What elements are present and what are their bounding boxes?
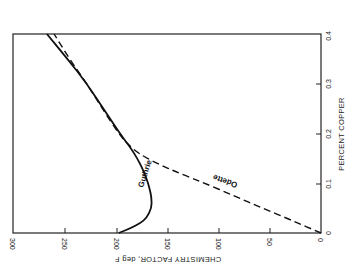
y-tick-label: 300 <box>9 238 16 250</box>
copper-ticks <box>316 84 321 184</box>
odette-series-line <box>54 34 321 233</box>
chemistry-factor-tick-labels: 300 250 200 150 100 50 0 <box>9 238 324 250</box>
chemistry-factor-chart: 300 250 200 150 100 50 0 CHEMISTRY FACTO… <box>0 0 353 277</box>
y-axis-title: CHEMISTRY FACTOR, deg F <box>115 255 222 264</box>
y-tick-label: 0 <box>317 238 324 242</box>
y-tick-label: 100 <box>215 238 222 250</box>
y-tick-label: 250 <box>61 238 68 250</box>
y-tick-label: 50 <box>266 238 273 246</box>
x-tick-label: 0.2 <box>325 129 332 139</box>
x-tick-label: 0.4 <box>325 31 332 41</box>
y-tick-label: 200 <box>113 238 120 250</box>
y-tick-label: 150 <box>164 238 171 250</box>
chemistry-factor-ticks <box>65 228 270 233</box>
x-tick-label: 0.1 <box>325 179 332 189</box>
guthrie-series-line <box>47 34 152 233</box>
x-tick-label: 0 <box>325 231 332 235</box>
copper-tick-labels: 0 0.1 0.2 0.3 0.4 <box>325 31 332 235</box>
odette-label: Odette <box>211 172 238 189</box>
x-tick-label: 0.3 <box>325 79 332 89</box>
plot-frame <box>13 34 321 233</box>
x-axis-title: PERCENT COPPER <box>337 97 346 171</box>
